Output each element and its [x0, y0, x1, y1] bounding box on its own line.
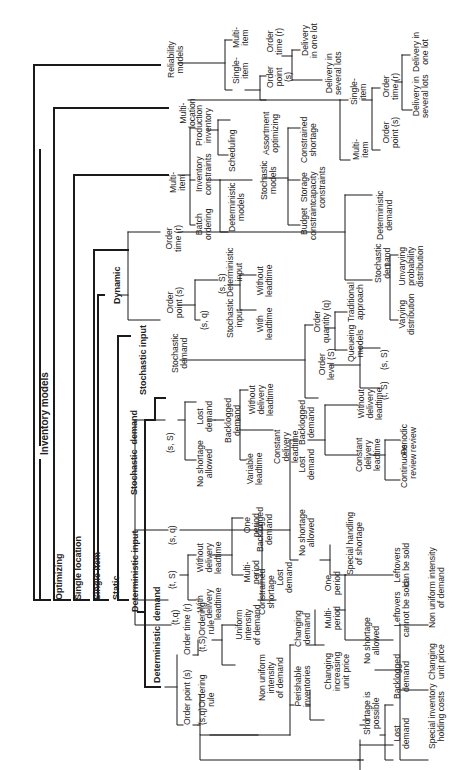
tree-node-deterministic-input: Deterministic input — [131, 530, 140, 612]
tree-node-root: Inventory models — [40, 372, 49, 455]
tree-node-without-dlt: Without delivery leadtime — [196, 542, 223, 574]
tree-node-stochastic-demand-top: Stochastic demand — [171, 333, 189, 373]
tree-node-changing-demand: Changing demand — [294, 610, 312, 647]
tree-node-constant-dlt-sq: Constant delivery leadtime — [355, 438, 382, 472]
tree-node-constant-dlt: Constant delivery leadtime — [273, 430, 300, 464]
tree-node-unvarying: Unvarying probability distribution — [398, 245, 425, 287]
tree-node-scheduling: Scheduling — [228, 129, 237, 172]
tree-node-delivery-one-ml: Delivery in one lot — [412, 32, 430, 72]
tree-node-varying: Varying distribution — [398, 293, 416, 335]
tree-node-sq-rule: (s,q)Ordering rule — [198, 674, 216, 725]
tree-node-order-level: Order level (S) — [318, 348, 336, 380]
tree-node-order-point-ml: Order point (s) — [382, 117, 400, 148]
tree-node-delivery-several-rel: Delivery in several lots — [325, 52, 343, 95]
tree-node-reliability: Reliability models — [167, 41, 185, 78]
tree-node-order-time-dd: Order time (r) — [183, 603, 192, 655]
tree-node-single-item-ml: Single- item — [350, 78, 368, 105]
tree-node-stoch-demand-dyn: Stochastic demand — [374, 243, 392, 283]
tree-node-traditional: Traditional approach — [347, 282, 365, 322]
tree-node-without-dlt-sS: Without delivery leadtime — [248, 384, 275, 416]
tree-node-no-shortage-sq: No shortage allowed — [298, 509, 316, 556]
tree-node-deterministic-demand: Deterministic demand — [153, 586, 162, 683]
tree-node-no-shortage-sS: No shortage allowed — [196, 440, 214, 487]
tree-node-without-dlt-sq: Without delivery leadtime — [357, 388, 384, 420]
tree-node-sS-sd: (s, S) — [166, 432, 175, 453]
tree-node-production-inv: Production inventory — [195, 105, 213, 146]
tree-node-multi-period-dd: Multi- period — [324, 606, 342, 630]
tree-node-order-quantity: Order quantity (q) — [313, 300, 331, 343]
tree-node-batch: Batch ordering — [195, 208, 213, 240]
tree-node-special-holding: Special inventory holding costs — [428, 684, 446, 749]
tree-node-uniform: Uniform intensity of demand — [235, 604, 262, 645]
tree-node-special-handling: Special handling of shortage — [346, 512, 364, 575]
tree-node-non-uniform: Non uniform intensity of demand — [258, 654, 285, 701]
tree-node-lost-demand-dd: Lost demand — [393, 718, 411, 749]
tree-node-variable-lt: Variable leadtime — [246, 453, 264, 485]
tree-node-with-lt: With leadtime — [256, 308, 274, 340]
tree-node-without-lt: Without leadtime — [256, 265, 274, 297]
tree-node-order-point-dd: Order point (s) — [183, 670, 192, 725]
tree-node-queueing: Queueing models — [347, 325, 365, 362]
tree-node-optimizing: Optimizing — [55, 554, 64, 601]
tree-node-lost-demand-sq: Lost demand — [298, 449, 316, 480]
tree-node-changing-unit-price: Changing unit price — [428, 643, 446, 680]
tree-node-backlogged-sS: Backlogged demand — [224, 398, 242, 443]
tree-node-non-uniform-intensity: Non uniform intensity of demand — [428, 547, 446, 628]
tree-node-periodic-review: Periodic review — [400, 424, 418, 455]
tree-node-det-models: Deterministic models — [228, 182, 246, 232]
tree-node-single-item: Single item — [93, 552, 102, 600]
tree-node-tS-rule: (t,S)Ordering rule — [198, 602, 216, 652]
tree-node-backlogged-dd: Backlogged demand — [393, 654, 411, 699]
tree-node-single-item-rel: Single- item — [232, 57, 250, 84]
tree-node-sq-dyn: (s, q) — [200, 310, 209, 330]
tree-node-multi-item-ml: Multi- item — [352, 139, 370, 160]
tree-node-sq-sd: (s, q) — [168, 525, 177, 545]
tree-node-order-time-ml: Order time (r) — [382, 73, 400, 100]
tree-node-det-input-dyn: Deterministic input — [226, 247, 244, 297]
tree-node-order-time-r-dyn: Order time (r) — [165, 225, 183, 252]
tree-node-storage: Storage capacity constraints — [300, 166, 327, 208]
tree-node-order-time-rel: Order time (r) — [266, 28, 284, 55]
tree-node-lost-demand-sS: Lost demand — [196, 401, 214, 432]
tree-node-det-demand-dyn: Deterministic demand — [376, 190, 394, 240]
tree-node-perishable: Perishable inventories — [294, 665, 312, 707]
tree-node-inv-constraints: Inventory constraints — [195, 153, 213, 195]
tree-node-backlogged-sq: Backlogged demand — [298, 400, 316, 445]
tree-node-multi-item: Multi- item — [169, 172, 187, 193]
tree-node-backlogged-ts: Backlogged demand — [256, 507, 274, 552]
tree-node-leftovers-not-sold: Leftovers cannot be sold — [393, 581, 411, 637]
tree-node-stochastic-demand: Stochastic demand — [130, 410, 139, 495]
tree-node-delivery-one-rel: Delivery in one lot — [301, 23, 319, 58]
tree-node-changing-increasing: Changing increasing unit price — [324, 652, 351, 691]
tree-node-dynamic: Dynamic — [113, 266, 122, 304]
tree-node-no-shortage-dd: No shortage allowed — [363, 617, 381, 664]
inventory-models-tree-diagram: Inventory modelsOptimizingSingle locatio… — [0, 0, 454, 770]
tree-node-tq-sd: (t,q) — [171, 610, 180, 625]
tree-node-stochastic-input: Stochastic input — [139, 325, 148, 395]
tree-node-assortment: Assortment optimizing — [262, 112, 280, 155]
tree-node-delivery-several-ml: Delivery in several lots — [412, 75, 430, 118]
tree-node-lost-demand-ts: Lost demand — [276, 562, 294, 593]
tree-node-stoch-models: Stochastic models — [260, 160, 278, 200]
tree-node-tS-sd: (t, S) — [168, 570, 177, 589]
tree-node-single-location: Single location — [74, 536, 83, 600]
tree-node-order-point-s-dyn: Order point (s) — [166, 287, 184, 318]
tree-node-shortage-possible: Shortage is possible — [363, 692, 381, 735]
tree-node-stoch-input-dyn: Stochastic input — [226, 298, 244, 338]
tree-node-static: Static — [112, 575, 121, 600]
tree-node-constrained-shortage-top: Constrained shortage — [300, 117, 318, 163]
tree-node-budget: Budget constraint — [300, 203, 318, 240]
tree-node-multi-item-rel: Multi- item — [232, 27, 250, 48]
tree-node-sS-ol: (s, S) — [380, 349, 389, 370]
tree-node-one-period-dd: One period — [324, 571, 342, 595]
tree-node-order-point-rel: Order point (s) — [266, 66, 293, 88]
